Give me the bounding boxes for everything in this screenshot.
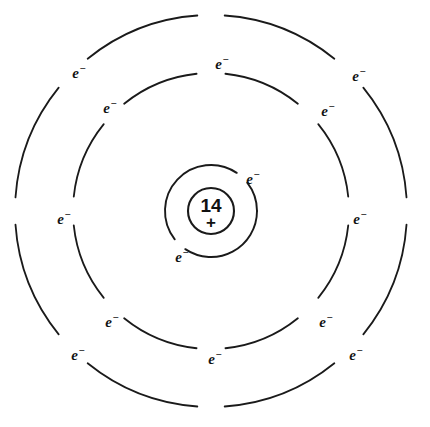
electron-label-s2-e3: e− [353,212,366,227]
electron-symbol: e [71,347,78,363]
shell-3-arc-segment [15,225,58,335]
electron-symbol: e [175,249,182,265]
electron-label-s3-e1: e− [72,66,85,81]
electron-charge-superscript: − [216,348,222,360]
electron-label-s2-e6: e− [105,315,118,330]
electron-label-s3-e4: e− [71,348,84,363]
nucleus-charge-sign: + [206,213,216,232]
electron-symbol: e [246,171,253,187]
electron-symbol: e [215,56,222,72]
electron-symbol: e [352,68,359,84]
electron-charge-superscript: − [329,100,335,112]
shell-2-arc-segment [318,225,348,297]
electron-symbol: e [353,211,360,227]
shell-3-arc-segment [15,88,58,198]
electron-symbol: e [103,100,110,116]
electron-label-s2-e1: e− [215,57,228,72]
shell-3-arc-segment [225,363,335,406]
shell-2-arc-segment [124,318,196,348]
shell-2-arc-segment [124,74,196,104]
electron-charge-superscript: − [361,208,367,220]
electron-symbol: e [319,314,326,330]
electron-charge-superscript: − [111,97,117,109]
electron-charge-superscript: − [357,344,363,356]
electron-label-s2-e2: e− [321,104,334,119]
electron-label-s2-e5: e− [208,352,221,367]
shell-3-arc-segment [88,15,198,58]
electron-charge-superscript: − [80,62,86,74]
electron-label-s2-e8: e− [103,101,116,116]
shell-2-arc-segment [225,318,297,348]
electron-label-s1-e1: e− [246,172,259,187]
shell-2-arc-segment [74,225,104,297]
electron-charge-superscript: − [223,53,229,65]
electron-charge-superscript: − [254,168,260,180]
shell-3-arc-segment [225,15,335,58]
electron-charge-superscript: − [183,246,189,258]
electron-charge-superscript: − [79,344,85,356]
electron-charge-superscript: − [360,65,366,77]
shell-1-arc-segment [247,183,257,211]
shell-2-arc-segment [225,74,297,104]
shell-3-arc-segment [363,88,406,198]
bohr-atom-diagram: 14 + e−e−e−e−e−e−e−e−e−e−e−e−e−e− [0,0,430,427]
electron-label-s2-e7: e− [57,212,70,227]
electron-charge-superscript: − [113,311,119,323]
electron-label-s3-e2: e− [352,69,365,84]
electron-label-s1-e2: e− [175,250,188,265]
electron-charge-superscript: − [65,208,71,220]
shell-2-arc-segment [318,124,348,196]
electron-symbol: e [349,347,356,363]
electron-symbol: e [57,211,64,227]
shell-2-arc-segment [74,124,104,196]
nucleus: 14 + [188,188,234,234]
electron-symbol: e [72,65,79,81]
electron-symbol: e [105,314,112,330]
electron-charge-superscript: − [327,311,333,323]
shell-3-arc-segment [88,363,198,406]
electron-symbol: e [208,351,215,367]
electron-label-s3-e3: e− [349,348,362,363]
electron-label-s2-e4: e− [319,315,332,330]
electron-symbol: e [321,103,328,119]
shell-3-arc-segment [363,225,406,335]
